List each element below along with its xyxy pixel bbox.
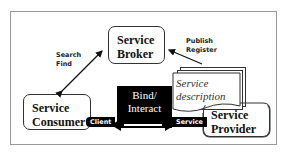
arrows-layer bbox=[0, 0, 290, 158]
publish-register-arrow bbox=[169, 50, 202, 64]
bind-interact-arrow bbox=[111, 119, 175, 131]
search-find-arrow bbox=[62, 51, 102, 91]
